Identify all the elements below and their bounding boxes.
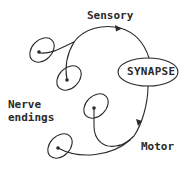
nerve-ending-4-icon	[43, 129, 77, 163]
nerve-endings-label-line1: Nerve	[8, 98, 54, 111]
nervous-pathway-diagram: Sensory SYNAPSE Nerve endings Motor	[0, 0, 195, 170]
synapse-label: SYNAPSE	[127, 65, 175, 78]
sensory-label: Sensory	[87, 9, 133, 22]
nerve-ending-3-icon	[79, 89, 113, 123]
nerve-ending-2-icon	[52, 61, 86, 95]
nerve-ending-2-dot	[65, 78, 69, 82]
nerve-ending-1-dot	[37, 50, 41, 54]
nerve-endings-label: Nerve endings	[8, 98, 54, 124]
sensory-branch-2	[66, 42, 74, 80]
motor-branch-4	[58, 140, 130, 155]
motor-pathway	[118, 86, 148, 146]
motor-branch-3	[94, 108, 120, 146]
motor-label: Motor	[141, 140, 174, 153]
nerve-ending-3-dot	[92, 106, 96, 110]
nerve-ending-1-icon	[25, 33, 59, 67]
sensory-pathway	[74, 27, 149, 58]
nerve-endings-label-line2: endings	[8, 111, 54, 124]
nerve-ending-4-dot	[56, 146, 60, 150]
sensory-arrow-icon	[115, 25, 122, 32]
